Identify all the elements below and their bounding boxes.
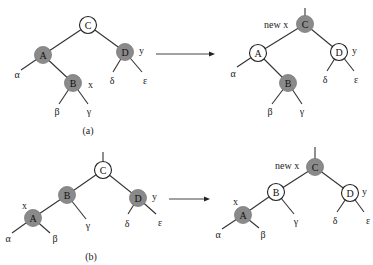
node-a-label: A (254, 48, 262, 59)
node-b: B (59, 187, 76, 204)
node-d: D (117, 44, 134, 61)
node-c: C (80, 17, 97, 34)
node-d-label: D (335, 47, 342, 58)
node-a: A (250, 45, 267, 62)
node-c-label: C (312, 162, 319, 173)
arrowhead-icon (204, 197, 210, 202)
subtree-epsilon: ε (158, 217, 162, 228)
node-d: D (331, 44, 348, 61)
subtree-alpha: α (14, 69, 20, 80)
node-b: B (280, 75, 297, 92)
panel-a-before: C A B D x y α β γ δ ε (14, 17, 147, 117)
subtree-alpha: α (215, 229, 221, 240)
node-a-label: A (29, 213, 37, 224)
node-a-label: A (239, 210, 247, 221)
panel-b-before: C B A D x y α β γ δ ε (5, 152, 162, 244)
subtree-epsilon: ε (366, 215, 370, 226)
node-c: C (307, 159, 324, 176)
node-c-label: C (100, 165, 107, 176)
annotation-x: x (22, 200, 27, 211)
caption-b: (b) (85, 251, 97, 263)
annotation-x: x (233, 196, 238, 207)
panel-b-after: C B A D new x x y α β γ δ ε (215, 147, 370, 240)
subtree-gamma: γ (86, 106, 92, 117)
subtree-beta: β (52, 233, 57, 244)
subtree-alpha: α (5, 233, 11, 244)
node-d-label: D (134, 193, 141, 204)
node-b-label: B (285, 78, 292, 89)
subtree-beta: β (260, 229, 265, 240)
subtree-delta: δ (110, 75, 115, 86)
subtree-alpha: α (230, 68, 236, 79)
annotation-new-x: new x (275, 160, 299, 171)
node-a: A (35, 47, 52, 64)
subtree-epsilon: ε (143, 75, 147, 86)
annotation-y: y (152, 191, 157, 202)
node-b-label: B (273, 187, 280, 198)
node-c-label: C (85, 20, 92, 31)
subtree-gamma: γ (85, 220, 91, 231)
subtree-gamma: γ (299, 106, 305, 117)
arrow-a (156, 52, 215, 57)
subtree-delta: δ (125, 218, 130, 229)
subtree-beta: β (54, 106, 59, 117)
annotation-new-x: new x (264, 19, 288, 30)
rb-tree-diagram: C A B D x y α β γ δ ε (0, 0, 373, 265)
node-d: D (130, 190, 147, 207)
annotation-y: y (139, 45, 144, 56)
subtree-delta: δ (323, 74, 328, 85)
node-b-label: B (70, 78, 77, 89)
node-b: B (268, 184, 285, 201)
arrow-b (169, 197, 210, 202)
node-c: C (297, 16, 314, 33)
node-c-label: C (302, 19, 309, 30)
node-b-label: B (64, 190, 71, 201)
annotation-y: y (362, 186, 367, 197)
node-c: C (95, 162, 112, 179)
node-a: A (25, 210, 42, 227)
panel-a-after: C A B D new x y α β γ δ ε (230, 8, 358, 117)
subtree-beta: β (267, 106, 272, 117)
arrowhead-icon (209, 52, 215, 57)
node-d-label: D (121, 47, 128, 58)
node-a-label: A (39, 50, 47, 61)
annotation-y: y (352, 45, 357, 56)
subtree-delta: δ (333, 215, 338, 226)
node-a: A (235, 207, 252, 224)
node-b: B (65, 75, 82, 92)
node-d-label: D (346, 188, 353, 199)
annotation-x: x (88, 79, 93, 90)
subtree-gamma: γ (293, 216, 299, 227)
subtree-epsilon: ε (354, 74, 358, 85)
node-d: D (342, 185, 359, 202)
caption-a: (a) (82, 125, 93, 137)
